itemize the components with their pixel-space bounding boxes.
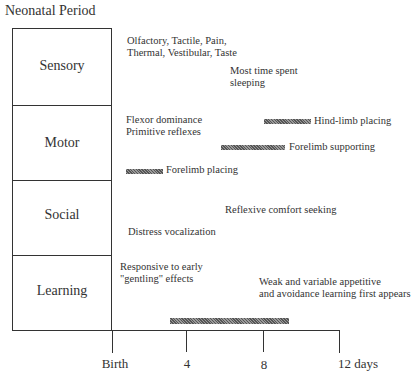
row-label-sensory: Sensory [13, 58, 111, 74]
note-gentling: Responsive to early "gentling" effects [120, 261, 203, 285]
note-sensory-modalities: Olfactory, Tactile, Pain, Thermal, Vesti… [127, 35, 237, 59]
tick-label-4: 4 [184, 356, 191, 372]
row-box-sensory: Sensory [12, 28, 112, 106]
bar-forelimb-supporting [221, 145, 285, 150]
bar-forelimb-placing [126, 169, 163, 174]
row-box-learning: Learning [12, 255, 112, 331]
note-learning: Weak and variable appetitive and avoidan… [259, 276, 411, 300]
tick-birth [112, 330, 113, 353]
bar-learning [170, 318, 289, 324]
tick-label-8: 8 [261, 357, 268, 373]
label-forelimb-supporting: Forelimb supporting [289, 141, 375, 153]
bar-hind-limb-placing [264, 119, 311, 124]
row-box-social: Social [12, 180, 112, 256]
tick-label-birth: Birth [102, 356, 129, 372]
tick-label-12-days: 12 days [338, 356, 378, 372]
diagram-title: Neonatal Period [5, 3, 96, 19]
label-hind-limb-placing: Hind-limb placing [314, 115, 391, 127]
tick-8 [263, 331, 264, 352]
row-label-learning: Learning [13, 283, 111, 299]
note-sleeping: Most time spent sleeping [230, 65, 298, 89]
row-label-social: Social [13, 207, 111, 223]
label-forelimb-placing: Forelimb placing [166, 164, 238, 176]
row-label-motor: Motor [13, 135, 111, 151]
tick-4 [186, 330, 187, 352]
note-motor-reflexes: Flexor dominance Primitive reflexes [126, 114, 202, 138]
time-axis-line [112, 330, 340, 331]
row-box-motor: Motor [12, 105, 112, 181]
note-distress-vocalization: Distress vocalization [128, 226, 216, 238]
note-comfort-seeking: Reflexive comfort seeking [225, 204, 336, 216]
tick-12 [339, 331, 340, 353]
